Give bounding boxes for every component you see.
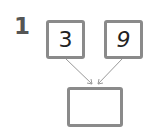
arrow-left-icon bbox=[66, 59, 92, 84]
answer-box[interactable] bbox=[67, 87, 123, 127]
arrow-right-icon bbox=[98, 59, 122, 84]
